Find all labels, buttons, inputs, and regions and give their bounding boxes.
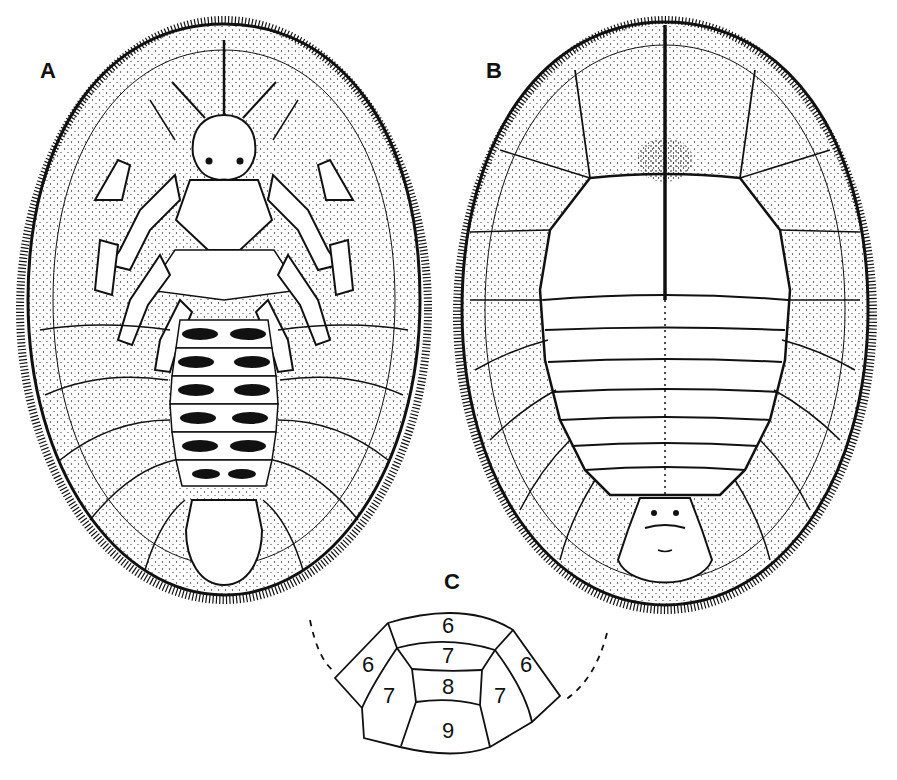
segment-labels: 6 6 6 7 7 7 8 9 xyxy=(0,0,897,780)
segment-label-7-right: 7 xyxy=(494,683,506,708)
segment-label-6-right: 6 xyxy=(520,652,532,677)
segment-label-8: 8 xyxy=(442,674,454,699)
segment-label-6-left: 6 xyxy=(362,652,374,677)
segment-label-6-top: 6 xyxy=(442,613,454,638)
segment-label-7-center: 7 xyxy=(442,643,454,668)
segment-label-9: 9 xyxy=(442,718,454,743)
segment-label-7-left: 7 xyxy=(383,683,395,708)
